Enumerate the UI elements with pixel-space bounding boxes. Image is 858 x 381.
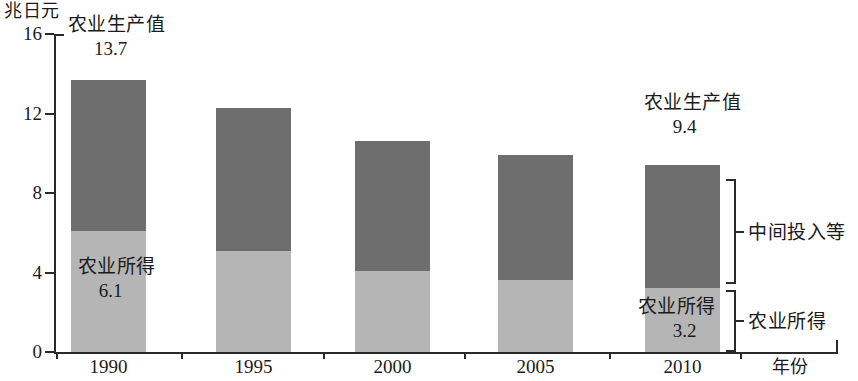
bar-2000 [355, 141, 430, 352]
bar-2005 [498, 155, 573, 352]
x-axis-line [54, 352, 838, 354]
x-axis-title: 年份 [772, 356, 808, 378]
bar-segment-intermediate-inputs [216, 108, 291, 251]
legend-label-farm-income: 农业所得 [748, 311, 826, 332]
legend-label-intermediate-inputs: 中间投入等 [748, 221, 846, 242]
x-axis-tick-label: 1990 [69, 356, 149, 378]
bracket-mid-tick [736, 320, 744, 322]
x-axis-tick-label: 2005 [496, 356, 576, 378]
x-axis-tick-label: 2000 [353, 356, 433, 378]
y-axis-tick [45, 192, 54, 194]
bracket-cap-bottom [726, 350, 736, 352]
bar-segment-farm-income [498, 280, 573, 352]
bracket-mid-tick [736, 231, 744, 233]
x-axis-tick [609, 352, 611, 359]
first-bar-income-value: 6.1 [21, 280, 201, 301]
first-bar-income-label: 农业所得 [27, 256, 207, 277]
x-axis-tick [181, 352, 183, 359]
bar-segment-intermediate-inputs [498, 155, 573, 280]
first-bar-total-label: 农业生产值 [27, 14, 207, 35]
last-bar-total-value: 9.4 [595, 116, 775, 137]
last-bar-total-label: 农业生产值 [603, 92, 783, 113]
y-axis-tick-label: 12 [0, 104, 42, 123]
y-axis-line [54, 34, 56, 353]
y-axis-tick-label: 8 [0, 183, 42, 202]
legend-bracket-intermediate-inputs: 中间投入等 [726, 179, 846, 284]
bar-segment-intermediate-inputs [71, 80, 146, 231]
bar-segment-intermediate-inputs [355, 141, 430, 270]
legend-bracket-farm-income: 农业所得 [726, 290, 846, 352]
first-bar-total-value: 13.7 [21, 38, 201, 59]
agriculture-output-stacked-bar-chart: 兆日元 0481216 19901995200020052010 年份 农业生产… [0, 0, 858, 381]
bar-segment-farm-income [355, 271, 430, 352]
bar-1990 [71, 80, 146, 352]
x-axis-tick [740, 352, 742, 359]
bar-segment-intermediate-inputs [645, 165, 720, 288]
y-axis-tick [45, 113, 54, 115]
y-axis-tick [45, 351, 54, 353]
x-axis-tick [323, 352, 325, 359]
x-axis-tick-label: 2010 [643, 356, 723, 378]
bar-segment-farm-income [216, 251, 291, 352]
x-axis-tick [56, 352, 58, 359]
x-axis-tick-label: 1995 [214, 356, 294, 378]
x-axis-tick [464, 352, 466, 359]
y-axis-tick-label: 0 [0, 342, 42, 361]
bar-1995 [216, 108, 291, 352]
bracket-cap-bottom [726, 282, 736, 284]
